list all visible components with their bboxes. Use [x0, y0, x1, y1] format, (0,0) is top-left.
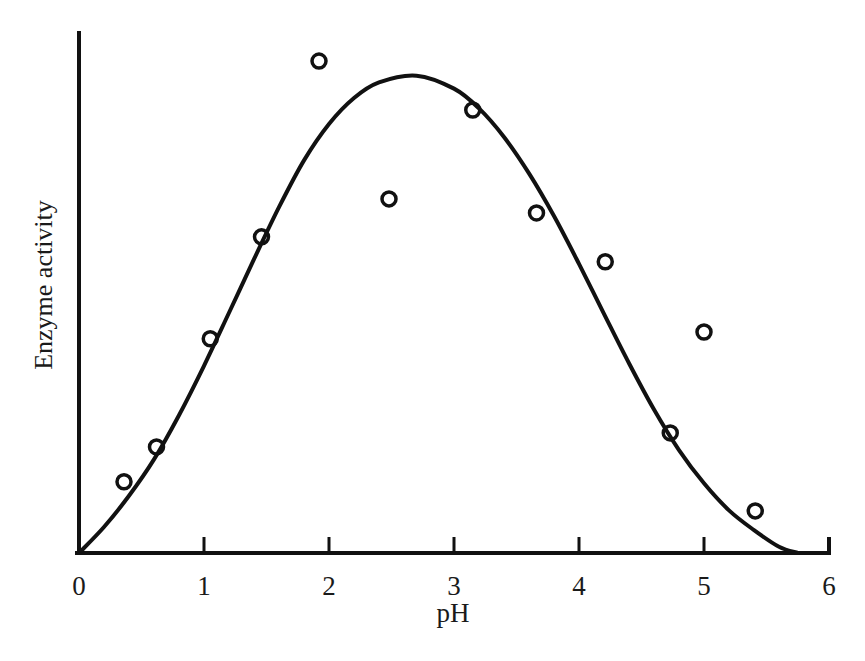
data-point-marker [748, 504, 762, 518]
x-tick-label-2: 2 [309, 573, 349, 600]
data-point-markers [117, 54, 762, 518]
x-axis-ticks [79, 537, 829, 553]
enzyme-activity-ph-figure: 0123456 pH Enzyme activity [0, 0, 865, 661]
x-tick-label-3: 3 [434, 573, 474, 600]
x-tick-label-0: 0 [59, 573, 99, 600]
y-axis-label: Enzyme activity [29, 200, 58, 370]
data-point-marker [312, 54, 326, 68]
data-point-marker [598, 255, 612, 269]
data-point-marker [117, 475, 131, 489]
fitted-curve [79, 75, 798, 553]
data-point-marker [382, 192, 396, 206]
y-axis-label-wrapper: Enzyme activity [24, 165, 64, 405]
x-tick-label-5: 5 [684, 573, 724, 600]
x-tick-label-4: 4 [559, 573, 599, 600]
axis-lines [77, 33, 829, 553]
x-axis-label: pH [403, 600, 503, 627]
x-tick-label-6: 6 [809, 573, 849, 600]
plot-canvas [0, 0, 865, 661]
data-point-marker [530, 206, 544, 220]
x-tick-label-1: 1 [184, 573, 224, 600]
data-point-marker [697, 325, 711, 339]
